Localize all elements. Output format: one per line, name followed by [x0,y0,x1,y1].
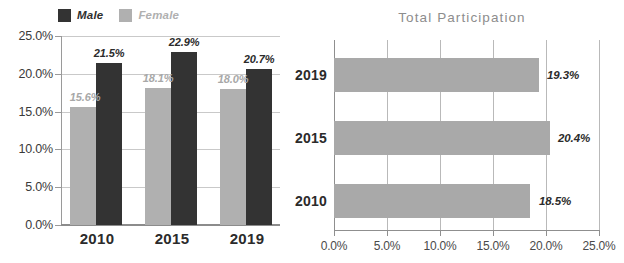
x-tick-mark [387,230,388,236]
bar-male-2019[interactable] [246,69,272,226]
x-tick-mark [546,230,547,236]
chart-canvas: Male Female 25.0% 20.0% 15.0% 10.0% 5.0%… [0,0,624,263]
y-tick-label: 10.0% [19,142,53,156]
y-tick-mark [55,74,62,75]
y-tick-label: 0.0% [25,218,53,232]
x-tick-label: 0.0% [321,239,348,253]
bar-male-2010[interactable] [96,63,122,226]
bar-female-2019[interactable] [220,89,246,225]
legend-item-male: Male [58,9,103,22]
y-tick-mark [55,149,62,150]
x-tick-label: 20.0% [529,239,562,253]
y-axis-tick-labels: 25.0% 20.0% 15.0% 10.0% 5.0% 0.0% [0,36,53,225]
plot-area-left: 15.6% 21.5% 18.1% 22.9% 18.0% 20.7% [62,36,280,225]
x-tick-label: 5.0% [374,239,401,253]
x-category-label-2019: 2019 [210,230,284,247]
bar-total-2015[interactable] [334,121,550,155]
y-axis-line [61,36,62,225]
x-tick-mark [334,230,335,236]
bar-value-female-2015: 18.1% [133,72,183,84]
gender-participation-chart: Male Female 25.0% 20.0% 15.0% 10.0% 5.0%… [0,0,300,263]
y-tick-mark [55,36,62,37]
bar-value-male-2015: 22.9% [159,36,209,48]
legend-item-female: Female [119,9,179,22]
x-tick-label: 15.0% [476,239,509,253]
y-tick-label: 25.0% [19,29,53,43]
x-category-label-2015: 2015 [135,230,209,247]
legend-label-female: Female [138,9,179,21]
legend-label-male: Male [77,9,103,21]
bar-value-male-2010: 21.5% [84,47,134,59]
plot-area-right: 0.0% 5.0% 10.0% 15.0% 20.0% 25.0% 2019 1… [334,40,599,230]
bar-total-2019[interactable] [334,58,539,92]
bar-value-female-2010: 15.6% [60,91,110,103]
x-tick-mark [599,230,600,236]
bar-total-2010[interactable] [334,184,530,218]
y-tick-label: 15.0% [19,105,53,119]
x-tick-label: 25.0% [582,239,615,253]
bar-value-male-2019: 20.7% [234,53,284,65]
gridline-25 [599,40,600,230]
x-category-label-2010: 2010 [60,230,134,247]
x-axis-line-right [334,230,600,231]
bar-value-2015: 20.4% [558,132,590,144]
bar-female-2010[interactable] [70,107,96,225]
bar-value-2010: 18.5% [539,195,571,207]
legend-swatch-female-icon [119,9,132,22]
y-tick-mark [55,112,62,113]
y-tick-label: 20.0% [19,67,53,81]
y-category-label-2010: 2010 [295,193,327,209]
legend-swatch-male-icon [58,9,71,22]
bar-female-2015[interactable] [145,88,171,225]
bar-value-female-2019: 18.0% [208,73,258,85]
legend: Male Female [58,6,179,24]
bar-value-2019: 19.3% [547,69,579,81]
right-chart-title: Total Participation [300,10,624,25]
y-tick-label: 5.0% [25,180,53,194]
y-category-label-2015: 2015 [295,130,327,146]
x-tick-mark [493,230,494,236]
y-tick-mark [55,187,62,188]
x-tick-label: 10.0% [423,239,456,253]
x-tick-mark [440,230,441,236]
total-participation-chart: Total Participation 0.0% 5.0% 10.0% 15.0… [300,0,624,263]
y-category-label-2019: 2019 [295,67,327,83]
